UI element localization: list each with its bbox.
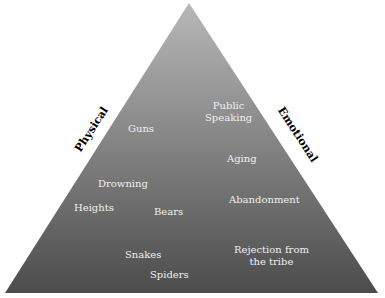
label-rejection-line2: the tribe xyxy=(234,256,309,268)
label-public-speaking-line1: Public xyxy=(205,100,252,112)
label-guns: Guns xyxy=(128,123,154,135)
label-bears: Bears xyxy=(154,206,183,218)
label-spiders: Spiders xyxy=(150,269,189,281)
label-aging: Aging xyxy=(227,153,257,165)
label-rejection-from-the-tribe: Rejection from the tribe xyxy=(234,244,309,268)
label-abandonment: Abandonment xyxy=(229,194,300,206)
label-public-speaking: Public Speaking xyxy=(205,100,252,124)
label-public-speaking-line2: Speaking xyxy=(205,112,252,124)
label-rejection-line1: Rejection from xyxy=(234,244,309,256)
label-drowning: Drowning xyxy=(98,178,148,190)
label-heights: Heights xyxy=(74,202,114,214)
fear-triangle xyxy=(0,0,385,298)
label-snakes: Snakes xyxy=(125,249,161,261)
